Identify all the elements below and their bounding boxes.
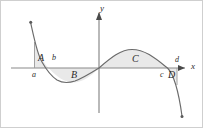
x-axis-arrowhead [178, 65, 185, 71]
y-axis-label: y [100, 4, 104, 13]
region-label-B: B [71, 70, 77, 80]
point-label-a: a [32, 71, 36, 79]
point-label-d: d [175, 56, 179, 64]
region-label-A: A [38, 53, 44, 63]
x-axis-label: x [191, 62, 195, 71]
point-label-c: c [160, 71, 164, 79]
curve-start-marker [29, 21, 32, 24]
region-label-C: C [132, 54, 139, 64]
point-label-b: b [52, 54, 56, 62]
figure-canvas [1, 1, 203, 128]
figure-container: A B C D a b c d y x [0, 0, 203, 128]
curve-end-marker [181, 115, 184, 118]
region-label-D: D [168, 70, 175, 80]
y-axis-arrowhead [96, 12, 102, 20]
